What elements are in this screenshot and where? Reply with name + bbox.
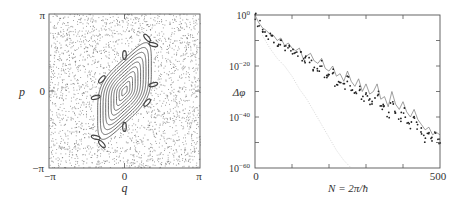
right-y-tick-label-60: 10−60 xyxy=(229,162,250,174)
right-ticks xyxy=(255,15,440,168)
left-y-axis-label: p xyxy=(18,85,25,99)
right-plot-frame xyxy=(255,15,440,168)
splitting-panel: 100 10−20 10−40 10−60 0 500 N = 2π/ħ Δφ xyxy=(229,9,447,194)
figure: π 0 −π −π 0 π q p 100 10−20 10−40 10−60 … xyxy=(0,0,465,202)
chaotic-sea-points xyxy=(49,14,201,168)
phase-space-panel: π 0 −π −π 0 π q p xyxy=(18,9,202,195)
right-y-tick-label-40: 10−40 xyxy=(229,111,250,123)
left-plot-frame xyxy=(49,14,200,168)
left-x-tick-label-right: π xyxy=(196,170,202,182)
right-x-axis-label: N = 2π/ħ xyxy=(327,182,368,194)
right-y-tick-label-20: 10−20 xyxy=(229,60,250,72)
right-y-tick-label-0: 100 xyxy=(237,9,251,21)
left-y-tick-label-mid: 0 xyxy=(40,85,46,97)
left-y-tick-label-top: π xyxy=(39,9,45,21)
data-series xyxy=(254,13,441,169)
right-x-tick-label-500: 500 xyxy=(430,170,447,182)
left-y-tick-label-bottom: −π xyxy=(32,162,44,174)
left-x-axis-label: q xyxy=(122,181,128,195)
left-x-tick-label-left: −π xyxy=(44,170,56,182)
right-y-axis-label: Δφ xyxy=(232,86,246,98)
right-x-tick-label-0: 0 xyxy=(253,170,259,182)
